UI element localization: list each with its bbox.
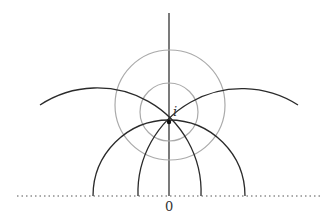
hyperbolic-plane-diagram: i 0 xyxy=(0,0,335,221)
label-origin: 0 xyxy=(165,199,173,214)
right-large-geodesic xyxy=(138,89,298,196)
point-i xyxy=(167,120,171,124)
label-i: i xyxy=(173,104,177,119)
hyperbolic-circle-outer xyxy=(115,50,225,160)
